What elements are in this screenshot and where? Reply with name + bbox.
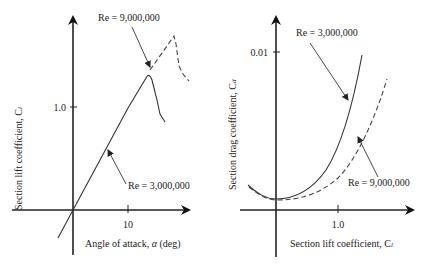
lift-x-label: Angle of attack, α (deg) (85, 238, 181, 250)
lift-chart: 1.0 10 Section lift coefficient, Cl Angl… (12, 12, 190, 255)
drag-arrow-re3m (310, 43, 348, 100)
lift-y-label: Section lift coefficient, Cl (13, 107, 24, 210)
drag-ytick-label: 0.01 (251, 47, 269, 58)
drag-x-label: Section lift coefficient, Cl (290, 238, 393, 249)
lift-ytick-label: 1.0 (54, 102, 67, 113)
lift-curve-re9m (150, 36, 189, 81)
drag-chart: 0.01 1.0 Section drag coefficient, Cd Se… (227, 20, 410, 257)
lift-annotation-re9m: Re = 9,000,000 (98, 12, 160, 23)
drag-xtick-label: 1.0 (332, 219, 345, 230)
drag-curve-re3m (248, 55, 362, 199)
lift-annotation-re3m: Re = 3,000,000 (128, 180, 190, 191)
drag-annotation-re3m: Re = 3,000,000 (296, 27, 358, 38)
drag-annotation-re9m: Re = 9,000,000 (348, 177, 410, 188)
lift-xtick-label: 10 (123, 219, 133, 230)
drag-arrow-re9m (358, 137, 378, 177)
figure: 1.0 10 Section lift coefficient, Cl Angl… (0, 0, 428, 268)
lift-arrow-re9m (132, 27, 150, 67)
lift-arrow-re3m (108, 150, 126, 184)
drag-y-label: Section drag coefficient, Cd (227, 79, 238, 190)
